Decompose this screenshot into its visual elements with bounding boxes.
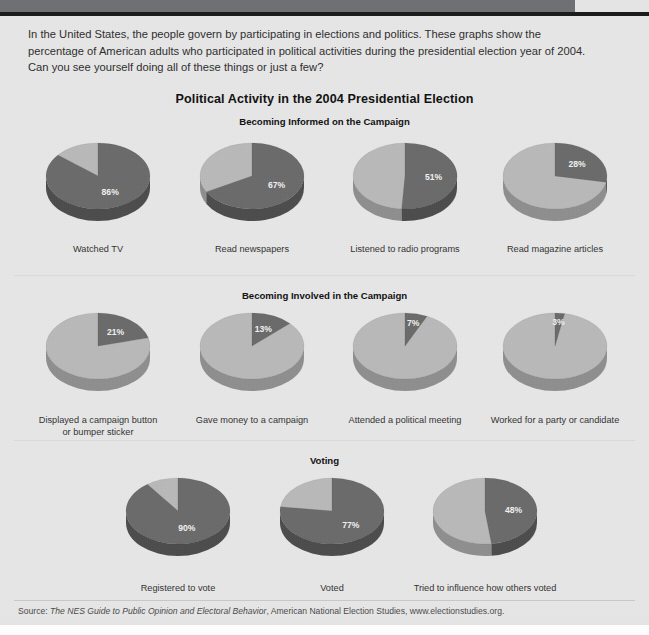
- pie-caption: Tried to influence how others voted: [407, 583, 563, 595]
- pie-chart-group: 90%Registered to vote: [118, 473, 238, 559]
- pie-value-label: 51%: [425, 172, 443, 182]
- page-title: Political Activity in the 2004 President…: [0, 92, 649, 106]
- pie-caption: Gave money to a campaign: [174, 415, 330, 427]
- pie-caption-line1: Registered to vote: [100, 583, 256, 595]
- row-divider-2: [14, 440, 635, 441]
- source-rest: , American National Election Studies, ww…: [266, 606, 504, 616]
- pie-chart: 48%: [425, 473, 545, 583]
- pie-canvas: 48%: [425, 473, 545, 559]
- pie-canvas: 77%: [272, 473, 392, 559]
- pie-slice-value: [126, 478, 230, 544]
- pie-canvas: 21%: [38, 308, 158, 394]
- figure-page: In the United States, the people govern …: [0, 0, 649, 635]
- pie-chart-group: 7%Attended a political meeting: [345, 308, 465, 394]
- pie-caption: Displayed a campaign buttonor bumper sti…: [20, 415, 176, 438]
- source-rule: [14, 600, 635, 601]
- pie-canvas: 28%: [495, 138, 615, 224]
- pie-caption-line1: Read magazine articles: [477, 244, 633, 256]
- pie-chart-group: 86%Watched TV: [38, 138, 158, 224]
- pie-caption: Voted: [254, 583, 410, 595]
- pie-chart-group: 28%Read magazine articles: [495, 138, 615, 224]
- pie-chart: 3%: [495, 308, 615, 418]
- pie-chart-group: 21%Displayed a campaign buttonor bumper …: [38, 308, 158, 394]
- pie-caption-line2: or bumper sticker: [20, 427, 176, 439]
- pie-caption: Read magazine articles: [477, 244, 633, 256]
- pie-chart: 67%: [192, 138, 312, 248]
- pie-caption-line1: Worked for a party or candidate: [477, 415, 633, 427]
- pie-caption-line1: Attended a political meeting: [327, 415, 483, 427]
- pie-chart-group: 48%Tried to influence how others voted: [425, 473, 545, 559]
- pie-caption-line1: Gave money to a campaign: [174, 415, 330, 427]
- top-banner-strip: [0, 0, 575, 12]
- pie-caption: Read newspapers: [174, 244, 330, 256]
- pie-caption-line1: Listened to radio programs: [327, 244, 483, 256]
- pie-caption-line1: Read newspapers: [174, 244, 330, 256]
- pie-chart-group: 51%Listened to radio programs: [345, 138, 465, 224]
- pie-value-label: 28%: [568, 159, 586, 169]
- pie-caption: Watched TV: [20, 244, 176, 256]
- pie-value-label: 67%: [268, 180, 286, 190]
- pie-chart: 28%: [495, 138, 615, 248]
- row-divider-1: [14, 275, 635, 276]
- pie-value-label: 3%: [552, 317, 565, 327]
- pie-value-label: 77%: [342, 520, 360, 530]
- pie-chart: 13%: [192, 308, 312, 418]
- pie-canvas: 13%: [192, 308, 312, 394]
- page-bottom-margin: [0, 625, 649, 635]
- pie-slice-remainder: [280, 478, 332, 511]
- pie-caption-line1: Displayed a campaign button: [20, 415, 176, 427]
- source-title: The NES Guide to Public Opinion and Elec…: [50, 606, 266, 616]
- pie-value-label: 86%: [102, 187, 120, 197]
- pie-caption: Worked for a party or candidate: [477, 415, 633, 427]
- pie-caption-line1: Voted: [254, 583, 410, 595]
- pie-caption: Listened to radio programs: [327, 244, 483, 256]
- pie-caption: Registered to vote: [100, 583, 256, 595]
- pie-canvas: 90%: [118, 473, 238, 559]
- pie-value-label: 90%: [178, 523, 196, 533]
- pie-caption-line1: Tried to influence how others voted: [407, 583, 563, 595]
- pie-chart: 7%: [345, 308, 465, 418]
- pie-chart-group: 77%Voted: [272, 473, 392, 559]
- pie-value-label: 21%: [107, 327, 125, 337]
- pie-value-label: 13%: [255, 324, 273, 334]
- section-heading-informed: Becoming Informed on the Campaign: [0, 116, 649, 127]
- pie-value-label: 48%: [505, 505, 523, 515]
- intro-paragraph: In the United States, the people govern …: [28, 26, 598, 76]
- pie-chart: 51%: [345, 138, 465, 248]
- pie-chart: 77%: [272, 473, 392, 583]
- source-note: Source: The NES Guide to Public Opinion …: [18, 606, 504, 616]
- pie-caption-line1: Watched TV: [20, 244, 176, 256]
- source-prefix: Source:: [18, 606, 50, 616]
- pie-chart-group: 3%Worked for a party or candidate: [495, 308, 615, 394]
- pie-chart-group: 67%Read newspapers: [192, 138, 312, 224]
- pie-chart: 21%: [38, 308, 158, 418]
- section-heading-voting: Voting: [0, 455, 649, 466]
- pie-canvas: 86%: [38, 138, 158, 224]
- section-heading-involved: Becoming Involved in the Campaign: [0, 290, 649, 301]
- pie-chart-group: 13%Gave money to a campaign: [192, 308, 312, 394]
- pie-chart: 86%: [38, 138, 158, 248]
- pie-canvas: 7%: [345, 308, 465, 394]
- pie-value-label: 7%: [407, 318, 420, 328]
- pie-canvas: 67%: [192, 138, 312, 224]
- pie-canvas: 3%: [495, 308, 615, 394]
- pie-caption: Attended a political meeting: [327, 415, 483, 427]
- pie-canvas: 51%: [345, 138, 465, 224]
- pie-chart: 90%: [118, 473, 238, 583]
